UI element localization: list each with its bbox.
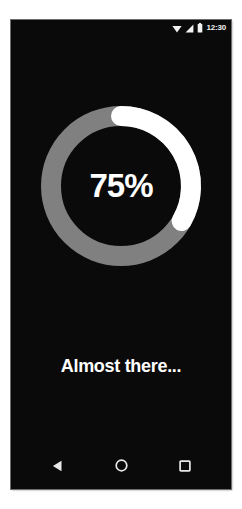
recents-button[interactable] <box>167 449 203 485</box>
status-bar-time: 12:30 <box>207 24 226 32</box>
back-triangle-icon <box>52 458 63 476</box>
recents-square-icon <box>179 458 191 476</box>
back-button[interactable] <box>39 449 75 485</box>
wifi-icon <box>172 20 182 37</box>
navigation-bar <box>11 445 231 489</box>
home-circle-icon <box>115 458 128 476</box>
status-bar: 12:30 <box>11 20 231 35</box>
progress-percent-label: 75% <box>35 100 207 272</box>
status-message-text: Almost there... <box>11 356 231 377</box>
home-button[interactable] <box>103 449 139 485</box>
device-screen: 12:30 75% Almost there... <box>11 20 231 489</box>
progress-ring: 75% <box>35 100 207 272</box>
cellular-signal-icon <box>185 20 194 37</box>
battery-icon <box>197 20 203 37</box>
